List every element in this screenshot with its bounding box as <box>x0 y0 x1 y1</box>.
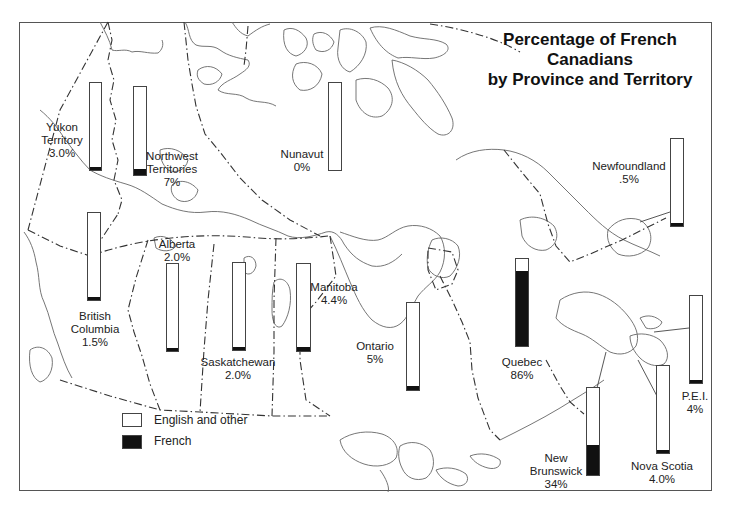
label-quebec: Quebec 86% <box>502 356 542 382</box>
bar-french-fill <box>90 167 101 170</box>
label-manitoba: Manitoba 4.4% <box>310 281 357 307</box>
arctic-island <box>197 67 222 85</box>
border-yukon-bc <box>28 214 118 256</box>
label-new-brunswick: New Brunswick 34% <box>530 452 582 491</box>
pacific-coastline <box>24 232 72 378</box>
bar-french-fill <box>297 347 310 351</box>
label-saskatchewan: Saskatchewan 2.0% <box>201 356 276 382</box>
border-60th-parallel <box>90 236 328 256</box>
lake-ontario <box>470 454 500 469</box>
bar-newfoundland <box>670 138 684 227</box>
baffin-island <box>392 60 453 135</box>
nova-scotia-shore <box>630 334 667 366</box>
bar-french-fill <box>407 386 419 390</box>
legend-swatch-french <box>122 435 142 449</box>
bar-new-brunswick <box>586 387 600 476</box>
bar-pei <box>689 295 703 384</box>
hudson-bay <box>330 225 445 327</box>
title-line-2: by Province and Territory <box>470 70 710 90</box>
lake-huron <box>399 443 434 480</box>
border-quebec-nb <box>546 360 584 414</box>
label-nova-scotia: Nova Scotia 4.0% <box>631 460 693 486</box>
legend-label-french: French <box>154 434 191 448</box>
gulf-st-lawrence <box>556 292 638 354</box>
bar-quebec <box>515 258 529 347</box>
bar-nova-scotia <box>656 365 670 454</box>
bar-french-fill <box>587 445 599 475</box>
arctic-island <box>293 62 322 90</box>
bar-northwest-territories <box>133 86 147 176</box>
ellesmere-island <box>370 27 448 59</box>
label-ontario: Ontario 5% <box>356 340 394 366</box>
bar-yukon <box>89 82 102 171</box>
arctic-island <box>232 22 270 36</box>
leader-new-brunswick <box>597 352 606 388</box>
leader-pei <box>654 328 689 332</box>
border-us-49th-parallel <box>60 380 330 416</box>
chart-canvas: Percentage of French Canadians by Provin… <box>0 0 731 507</box>
bar-french-fill <box>88 297 100 300</box>
border-ontario-quebec <box>440 276 500 440</box>
lake-superior <box>340 432 397 466</box>
legend-swatch-english <box>122 413 142 427</box>
border-bc-alberta <box>128 240 160 410</box>
bar-british-columbia <box>87 212 101 301</box>
bar-manitoba <box>296 263 311 352</box>
newfoundland-island <box>607 218 650 256</box>
lake-michigan <box>380 470 389 492</box>
bar-french-fill <box>167 348 178 351</box>
title-line-1: Percentage of French Canadians <box>470 30 710 70</box>
lake-erie <box>436 468 468 486</box>
label-northwest-territories: Northwest Territories 7% <box>146 150 198 189</box>
bar-french-fill <box>690 380 702 383</box>
baffin-island <box>356 78 392 117</box>
legend-label-english: English and other <box>154 413 247 427</box>
border-alberta-saskatchewan <box>200 244 214 412</box>
bar-ontario <box>406 302 420 391</box>
label-nunavut: Nunavut 0% <box>281 148 324 174</box>
chart-title: Percentage of French Canadians by Provin… <box>470 30 710 90</box>
bar-french-fill <box>233 347 245 350</box>
vancouver-island <box>29 347 52 382</box>
bar-nunavut <box>328 82 342 171</box>
arctic-coastline <box>185 22 276 106</box>
bar-saskatchewan <box>232 262 246 351</box>
bar-french-fill <box>657 450 669 453</box>
border-nwt-nunavut <box>184 22 320 236</box>
bar-french-fill <box>134 169 146 175</box>
border-saskatchewan-manitoba <box>272 238 276 416</box>
leader-newfoundland <box>640 212 670 222</box>
label-british-columbia: British Columbia 1.5% <box>71 310 120 349</box>
border-akimiski <box>428 248 458 290</box>
label-yukon: Yukon Territory 3.0% <box>41 121 83 160</box>
label-newfoundland: Newfoundland .5% <box>592 160 666 186</box>
arctic-island <box>338 29 367 72</box>
bar-french-fill <box>516 271 528 346</box>
label-alberta: Alberta 2.0% <box>159 238 195 264</box>
arctic-island <box>313 32 334 51</box>
label-pei: P.E.I. 4% <box>682 390 709 416</box>
arctic-island <box>284 28 308 56</box>
bar-french-fill <box>671 223 683 226</box>
bar-alberta <box>166 263 179 352</box>
pei-island <box>640 316 662 329</box>
